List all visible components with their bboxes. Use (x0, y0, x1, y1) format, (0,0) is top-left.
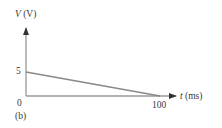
origin-label: 0 (17, 99, 22, 109)
y-tick-5: 5 (16, 67, 21, 77)
x-axis-var: t (180, 91, 183, 101)
y-axis-var: V (15, 9, 21, 19)
y-axis-label: V (V) (15, 10, 36, 20)
y-axis-unit: (V) (23, 9, 36, 19)
x-axis-unit: (ms) (185, 91, 202, 101)
x-axis-label: t (ms) (180, 92, 202, 102)
x-tick-100: 100 (152, 101, 166, 111)
data-line (26, 72, 160, 96)
figure-label: (b) (15, 112, 26, 122)
